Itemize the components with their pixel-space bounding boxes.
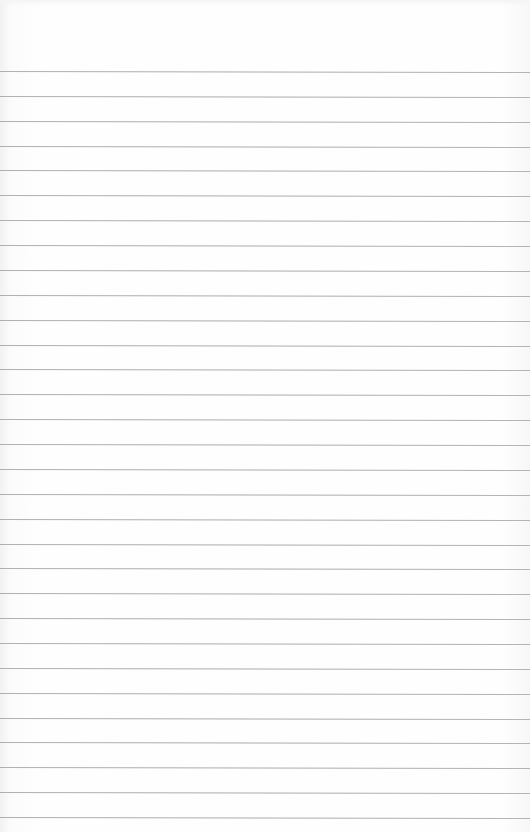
ruled-line (0, 419, 530, 421)
ruled-line (0, 767, 530, 769)
ruled-line (0, 121, 530, 123)
ruled-line (0, 693, 530, 695)
ruled-line (0, 270, 530, 272)
ruled-line (0, 369, 530, 371)
ruled-line (0, 618, 530, 620)
ruled-line (0, 817, 530, 819)
ruled-line (0, 494, 530, 496)
ruled-line (0, 394, 530, 396)
lined-paper-sheet (0, 0, 530, 832)
paper-top-edge (0, 0, 530, 6)
ruled-line (0, 195, 530, 197)
ruled-line (0, 469, 530, 471)
ruled-line (0, 593, 530, 595)
ruled-line (0, 245, 530, 247)
ruled-line (0, 519, 530, 521)
ruled-line (0, 668, 530, 670)
ruled-line (0, 295, 530, 297)
ruled-line (0, 742, 530, 744)
ruled-line (0, 544, 530, 546)
ruled-line (0, 96, 530, 98)
ruled-line (0, 146, 530, 148)
ruled-line (0, 345, 530, 347)
ruled-line (0, 792, 530, 794)
ruled-line (0, 718, 530, 720)
ruled-line (0, 170, 530, 172)
ruled-line (0, 643, 530, 645)
ruled-line (0, 568, 530, 570)
ruled-line (0, 444, 530, 446)
ruled-line (0, 71, 530, 73)
ruled-line (0, 320, 530, 322)
ruled-line (0, 220, 530, 222)
